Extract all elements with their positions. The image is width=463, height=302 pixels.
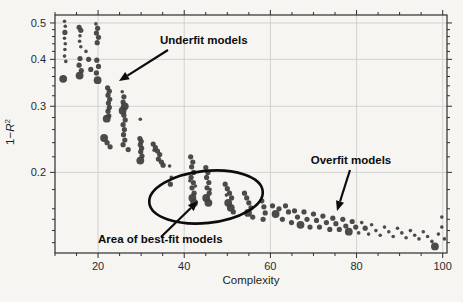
scatter-point <box>337 227 342 232</box>
scatter-point <box>242 191 247 196</box>
scatter-point <box>94 58 99 63</box>
y-axis-label-prefix: 1− <box>4 132 16 145</box>
scatter-point <box>190 160 195 165</box>
scatter-point <box>280 217 285 222</box>
scatter-point <box>64 25 68 29</box>
scatter-point <box>188 179 192 183</box>
scatter-point <box>311 211 316 216</box>
scatter-point <box>350 219 355 224</box>
scatter-point <box>340 217 345 222</box>
scatter-point <box>78 34 82 38</box>
scatter-point <box>204 175 209 180</box>
scatter-point <box>96 64 101 69</box>
x-axis-label: Complexity <box>223 274 280 286</box>
scatter-point <box>206 180 211 185</box>
scatter-point <box>283 203 288 208</box>
scatter-point <box>314 218 319 223</box>
scatter-point <box>363 226 368 231</box>
scatter-point <box>64 60 68 64</box>
y-axis-label: 1−R2 <box>3 119 16 145</box>
scatter-point <box>357 231 361 235</box>
annotation-overfit-arrowhead <box>336 200 344 211</box>
scatter-point <box>88 67 93 72</box>
annotation-overfit-arrow-line <box>340 170 350 201</box>
scatter-point <box>443 237 447 241</box>
scatter-point <box>374 229 378 233</box>
scatter-point <box>289 220 294 225</box>
scatter-point <box>431 243 439 251</box>
scatter-point <box>317 225 322 230</box>
scatter-point <box>189 164 194 169</box>
scatter-point <box>168 164 172 168</box>
x-tick-label: 80 <box>350 260 362 272</box>
scatter-point <box>324 220 329 225</box>
scatter-point <box>161 163 166 168</box>
scatter-point <box>270 203 275 208</box>
scatter-point <box>208 188 212 192</box>
scatter-point <box>367 232 371 236</box>
scatter-point <box>63 48 67 52</box>
scatter-point <box>205 199 213 207</box>
scatter-point <box>292 208 297 213</box>
scatter-point <box>152 149 156 153</box>
scatter-point <box>78 39 82 43</box>
scatter-point <box>95 26 100 31</box>
x-tick-label: 60 <box>264 260 276 272</box>
scatter-point <box>121 94 126 99</box>
scatter-point <box>106 100 111 105</box>
scatter-point <box>96 35 101 40</box>
y-axis-label-variable: R <box>4 124 16 132</box>
scatter-point <box>404 236 408 240</box>
scatter-point <box>94 22 98 26</box>
scatter-point <box>225 186 230 191</box>
scatter-point <box>63 20 67 24</box>
data-points <box>59 20 446 251</box>
x-tick-label: 100 <box>434 260 452 272</box>
scatter-point <box>126 147 131 152</box>
scatter-point <box>231 209 236 214</box>
scatter-point <box>263 210 268 215</box>
scatter-point <box>360 221 364 225</box>
y-axis-label-superscript: 2 <box>3 119 12 124</box>
scatter-point <box>391 235 395 239</box>
scatter-point <box>387 230 391 234</box>
y-tick-label: 0.4 <box>31 53 46 65</box>
scatter-point <box>225 193 229 197</box>
scatter-point <box>122 127 127 132</box>
scatter-point <box>121 132 126 137</box>
y-tick-label: 0.2 <box>31 166 46 178</box>
scatter-point <box>79 45 83 49</box>
scatter-point <box>400 231 404 235</box>
scatter-point <box>353 225 358 230</box>
scatter-point <box>246 200 251 205</box>
scatter-point <box>157 152 162 157</box>
scatter-point <box>63 37 67 41</box>
scatter-point <box>327 227 332 232</box>
scatter-point <box>203 165 208 170</box>
scatter-point <box>63 54 67 58</box>
scatter-point <box>168 182 173 187</box>
scatter-point <box>138 149 143 154</box>
scatter-point <box>437 232 441 236</box>
scatter-point <box>286 209 291 214</box>
chart-canvas: 204060801000.50.40.30.2 Underfit modelsO… <box>0 0 463 302</box>
scatter-point <box>430 240 434 244</box>
scatter-point <box>304 217 309 222</box>
scatter-point <box>84 50 88 54</box>
y-tick-label: 0.3 <box>31 100 46 112</box>
scatter-point <box>78 28 83 33</box>
scatter-point <box>261 217 266 222</box>
scatter-point <box>440 225 444 229</box>
x-tick-label: 40 <box>178 260 190 272</box>
scatter-point <box>330 216 335 221</box>
scatter-point <box>77 56 82 61</box>
scatter-point <box>121 122 126 127</box>
scatter-point <box>121 113 126 118</box>
annotation-underfit-arrow-line <box>127 50 168 76</box>
scatter-point <box>396 226 400 230</box>
scatter-point <box>194 184 198 188</box>
scatter-point <box>122 137 127 142</box>
scatter-point <box>64 42 68 46</box>
scatter-point <box>120 90 124 94</box>
tick-labels: 204060801000.50.40.30.2 <box>31 17 452 272</box>
